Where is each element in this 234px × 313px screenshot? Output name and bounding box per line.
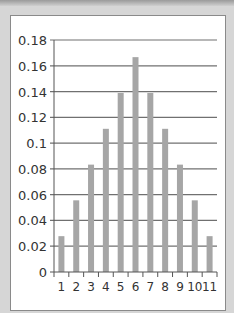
x-tick-label: 2: [72, 280, 80, 294]
y-tick-label: 0.16: [18, 59, 47, 74]
x-tick-label: 1: [58, 280, 66, 294]
bar-1: [58, 236, 64, 272]
x-tick-label: 8: [161, 280, 169, 294]
bar-8: [162, 129, 168, 272]
bar-4: [103, 129, 109, 272]
x-tick-label: 4: [102, 280, 110, 294]
y-tick-label: 0.1: [26, 136, 47, 151]
y-tick-label: 0.02: [18, 239, 47, 254]
bar-3: [88, 165, 94, 272]
bar-10: [192, 200, 198, 272]
bar-7: [147, 93, 153, 272]
y-tick-label: 0.18: [18, 33, 47, 48]
bar-9: [177, 165, 183, 272]
y-tick-label: 0.06: [18, 188, 47, 203]
y-tick-label: 0: [39, 265, 47, 280]
x-tick-label: 5: [117, 280, 125, 294]
y-axis: 00.020.040.060.080.10.120.140.160.18: [18, 33, 54, 280]
x-tick-label: 3: [87, 280, 95, 294]
y-tick-label: 0.12: [18, 110, 47, 125]
x-tick-label: 10: [187, 280, 202, 294]
bars: [58, 57, 212, 272]
x-axis: 1234567891011: [54, 272, 217, 294]
bar-2: [73, 200, 79, 272]
x-tick-label: 6: [132, 280, 140, 294]
y-tick-label: 0.14: [18, 85, 47, 100]
x-tick-label: 7: [146, 280, 154, 294]
bar-chart: 00.020.040.060.080.10.120.140.160.18 123…: [0, 0, 234, 313]
bar-6: [133, 57, 139, 272]
bar-5: [118, 93, 124, 272]
y-tick-label: 0.04: [18, 213, 47, 228]
x-tick-label: 9: [176, 280, 184, 294]
x-tick-label: 11: [202, 280, 217, 294]
bar-11: [207, 236, 213, 272]
y-tick-label: 0.08: [18, 162, 47, 177]
